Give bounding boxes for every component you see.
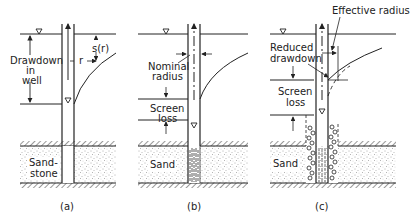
panel-c: Effective radius Reduced drawdown Screen… [270,5,410,212]
label-r: r [79,55,84,66]
water-level-icon [65,98,71,103]
label-effective-radius: Effective radius [332,5,410,16]
label-sand: Sand [273,158,298,169]
label-reduced: Reduced [270,42,313,53]
label-screen: Screen [278,86,312,97]
label-well: well [22,75,42,86]
label-s-of-r: s(r) [92,43,109,54]
water-table-icon [280,29,286,34]
caption-a: (a) [60,201,74,212]
label-drawdown: Drawdown [10,55,63,66]
label-sand: Sand [150,159,175,170]
water-table-icon [163,29,169,34]
well-drawdown-diagram: Drawdown in well s(r) r Sand- stone (a) [0,0,411,223]
caption-c: (c) [315,201,328,212]
caption-b: (b) [187,201,201,212]
label-loss: loss [158,113,177,124]
water-level-icon [191,123,197,128]
label-stone: stone [30,168,58,179]
water-level-icon [319,109,325,114]
water-table-icon [36,29,42,34]
panel-a: Drawdown in well s(r) r Sand- stone (a) [10,24,116,212]
hatch-bottom [20,183,116,188]
hatch-top [20,141,116,146]
label-radius: radius [152,71,183,82]
label-drawdown: drawdown [270,53,322,64]
label-sand: Sand- [29,157,58,168]
panel-b: Nominal radius Screen loss Sand (b) [138,24,248,212]
label-loss: loss [286,97,305,108]
